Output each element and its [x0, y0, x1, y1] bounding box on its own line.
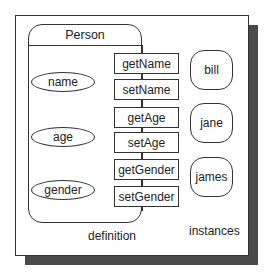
attribute-age: age — [31, 127, 95, 147]
method-getName: getName — [114, 53, 179, 74]
frame-shadow-bottom — [25, 255, 258, 265]
instance-label: james — [195, 170, 227, 184]
caption-instances: instances — [189, 224, 240, 238]
method-label: setAge — [128, 136, 165, 150]
method-label: setName — [122, 83, 170, 97]
attribute-gender: gender — [31, 180, 95, 200]
attribute-label: name — [48, 75, 78, 89]
method-getAge: getAge — [114, 107, 179, 128]
method-setAge: setAge — [114, 132, 179, 153]
method-label: getAge — [127, 111, 165, 125]
attribute-label: age — [53, 130, 73, 144]
attribute-label: gender — [44, 183, 81, 197]
attribute-name: name — [31, 72, 95, 92]
frame-shadow-right — [248, 25, 258, 265]
instance-label: bill — [204, 63, 219, 77]
class-name: Person — [29, 25, 141, 46]
instance-jane: jane — [190, 103, 233, 143]
instance-label: jane — [200, 116, 223, 130]
method-setGender: setGender — [114, 186, 179, 207]
caption-definition: definition — [88, 229, 136, 243]
method-label: setGender — [118, 190, 174, 204]
instance-james: james — [190, 157, 233, 197]
method-setName: setName — [114, 79, 179, 100]
method-getGender: getGender — [114, 159, 179, 180]
method-label: getGender — [118, 163, 175, 177]
method-label: getName — [122, 57, 171, 71]
instance-bill: bill — [190, 50, 233, 90]
